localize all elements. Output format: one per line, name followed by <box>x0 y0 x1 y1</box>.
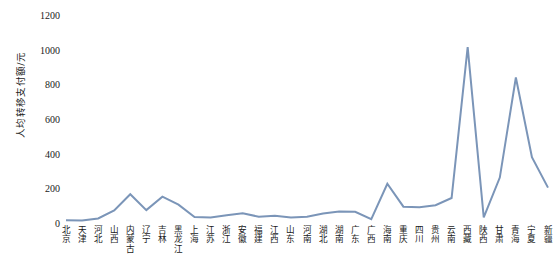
plot-area <box>66 16 548 224</box>
series-line-svg <box>66 16 548 224</box>
x-axis-tick-9: 江苏 <box>204 226 217 245</box>
x-axis-tick-2: 河北 <box>92 226 105 245</box>
y-axis-tick-1000: 1000 <box>40 46 60 56</box>
x-axis-tick-8: 上海 <box>188 226 201 245</box>
x-axis-tick-3: 山西 <box>108 226 121 245</box>
x-axis-tick-25: 西藏 <box>461 226 474 245</box>
x-axis-tick-17: 湖南 <box>333 226 346 245</box>
x-axis-tick-7: 黑龙江 <box>172 226 185 254</box>
line-chart: 人均转移支付额/元 020040060080010001200 北京天津河北山西… <box>0 0 554 278</box>
y-axis-tick-400: 400 <box>45 150 60 160</box>
x-axis-tick-10: 浙江 <box>220 226 233 245</box>
x-axis-tick-27: 甘肃 <box>493 226 506 245</box>
x-axis-tick-4: 内蒙古 <box>124 226 137 254</box>
x-axis-tick-23: 贵州 <box>429 226 442 245</box>
x-axis-tick-30: 新疆 <box>542 226 554 245</box>
x-axis-tick-labels: 北京天津河北山西内蒙古辽宁吉林黑龙江上海江苏浙江安徽福建江西山东河南湖北湖南广东… <box>66 226 548 278</box>
y-axis-tick-1200: 1200 <box>40 11 60 21</box>
x-axis-tick-18: 广东 <box>349 226 362 245</box>
x-axis-tick-21: 重庆 <box>397 226 410 245</box>
x-axis-tick-20: 海南 <box>381 226 394 245</box>
x-axis-tick-19: 广西 <box>365 226 378 245</box>
x-axis-tick-0: 北京 <box>60 226 73 245</box>
x-axis-tick-24: 云南 <box>445 226 458 245</box>
x-axis-tick-13: 江西 <box>268 226 281 245</box>
x-axis-tick-14: 山东 <box>284 226 297 245</box>
x-axis-tick-28: 青海 <box>509 226 522 245</box>
y-axis-tick-labels: 020040060080010001200 <box>0 0 66 278</box>
x-axis-tick-22: 四川 <box>413 226 426 245</box>
x-axis-tick-12: 福建 <box>252 226 265 245</box>
x-axis-tick-5: 辽宁 <box>140 226 153 245</box>
x-axis-tick-15: 河南 <box>301 226 314 245</box>
y-axis-tick-200: 200 <box>45 184 60 194</box>
x-axis-tick-6: 吉林 <box>156 226 169 245</box>
x-axis-tick-16: 湖北 <box>317 226 330 245</box>
y-axis-tick-800: 800 <box>45 80 60 90</box>
y-axis-tick-600: 600 <box>45 115 60 125</box>
x-axis-tick-11: 安徽 <box>236 226 249 245</box>
series-line-average-transfer-payment <box>66 47 548 220</box>
x-axis-tick-1: 天津 <box>76 226 89 245</box>
x-axis-tick-29: 宁夏 <box>525 226 538 245</box>
x-axis-tick-26: 陕西 <box>477 226 490 245</box>
